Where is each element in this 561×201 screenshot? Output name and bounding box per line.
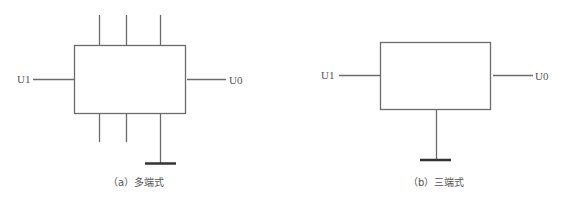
input-label-a: U1 [17,73,30,85]
diagram-a-multi-terminal [33,15,226,163]
input-label-b: U1 [321,69,334,81]
output-label-b: U0 [535,70,549,82]
caption-b: （b）三端式 [408,176,464,188]
output-label-a: U0 [229,74,243,86]
block-b [381,43,491,110]
block-a [75,46,186,114]
caption-a: （a）多端式 [108,176,164,188]
regulator-diagrams: U1 U0 （a）多端式 U1 U0 （b）三端式 [0,0,561,201]
diagram-b-three-terminal [339,43,533,160]
